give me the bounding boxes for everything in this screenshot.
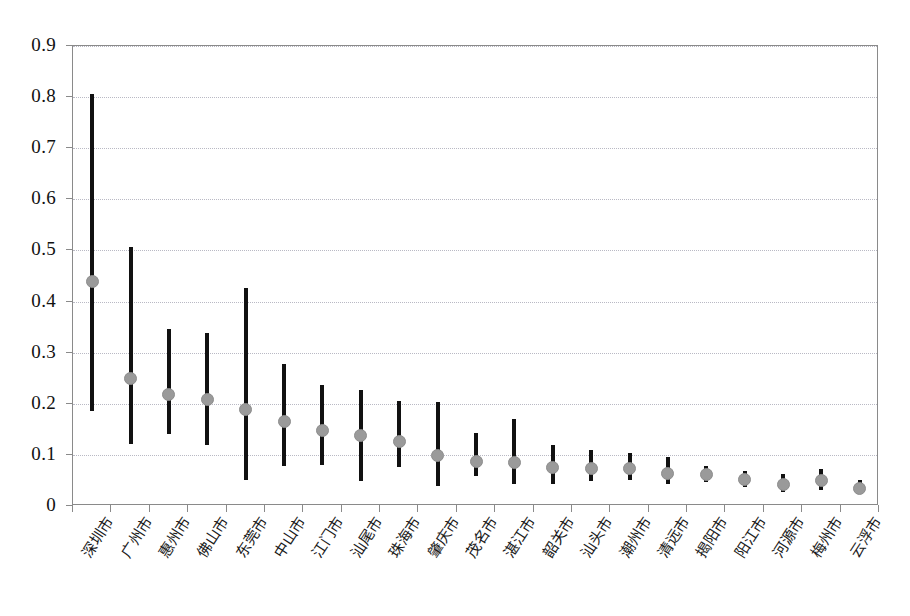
x-tick-mark: [417, 505, 418, 512]
data-point-marker: [278, 415, 291, 428]
y-tick-label: 0.8: [31, 85, 56, 107]
x-tick-label: 深圳市: [76, 512, 118, 561]
x-tick-mark: [149, 505, 150, 512]
x-tick-mark: [302, 505, 303, 512]
y-tick-mark: [66, 352, 72, 353]
y-tick-mark: [66, 301, 72, 302]
data-point-marker: [86, 275, 99, 288]
error-bar: [129, 247, 133, 443]
data-point-marker: [431, 449, 444, 462]
gridline: [73, 353, 877, 354]
x-tick-mark: [840, 505, 841, 512]
x-tick-mark: [187, 505, 188, 512]
x-tick-mark: [724, 505, 725, 512]
y-tick-label: 0.2: [31, 392, 56, 414]
x-tick-label: 茂名市: [459, 512, 501, 561]
x-tick-label: 潮州市: [613, 512, 655, 561]
y-tick-mark: [66, 454, 72, 455]
chart-container: 00.10.20.30.40.50.60.70.80.9 深圳市广州市惠州市佛山…: [0, 0, 910, 616]
data-point-marker: [661, 467, 674, 480]
error-bar: [244, 288, 248, 480]
x-tick-mark: [878, 505, 879, 512]
data-point-marker: [700, 468, 713, 481]
x-tick-label: 汕尾市: [344, 512, 386, 561]
x-tick-label: 中山市: [268, 512, 310, 561]
x-tick-mark: [571, 505, 572, 512]
x-tick-label: 珠海市: [383, 512, 425, 561]
error-bar: [205, 333, 209, 444]
data-point-marker: [546, 461, 559, 474]
y-tick-mark: [66, 198, 72, 199]
x-tick-mark: [379, 505, 380, 512]
y-tick-label: 0: [46, 494, 56, 516]
x-tick-mark: [110, 505, 111, 512]
y-tick-label: 0.3: [31, 341, 56, 363]
x-tick-mark: [72, 505, 73, 512]
x-tick-mark: [801, 505, 802, 512]
x-tick-mark: [648, 505, 649, 512]
x-tick-mark: [341, 505, 342, 512]
data-point-marker: [201, 393, 214, 406]
error-bar: [512, 419, 516, 483]
data-point-marker: [393, 435, 406, 448]
y-tick-label: 0.5: [31, 238, 56, 260]
y-tick-label: 0.7: [31, 136, 56, 158]
gridline: [73, 250, 877, 251]
data-point-marker: [354, 429, 367, 442]
x-tick-label: 江门市: [306, 512, 348, 561]
data-point-marker: [738, 473, 751, 486]
data-point-marker: [470, 455, 483, 468]
error-bar: [90, 94, 94, 411]
y-tick-label: 0.9: [31, 34, 56, 56]
y-tick-mark: [66, 45, 72, 46]
x-tick-label: 东莞市: [229, 512, 271, 561]
y-tick-label: 0.6: [31, 187, 56, 209]
data-point-marker: [316, 424, 329, 437]
x-tick-label: 广州市: [114, 512, 156, 561]
y-tick-label: 0.4: [31, 290, 56, 312]
x-tick-label: 韶关市: [536, 512, 578, 561]
gridline: [73, 97, 877, 98]
data-point-marker: [585, 462, 598, 475]
plot-area: [72, 45, 878, 505]
data-point-marker: [239, 403, 252, 416]
x-tick-label: 清远市: [651, 512, 693, 561]
x-tick-mark: [609, 505, 610, 512]
x-tick-mark: [456, 505, 457, 512]
x-tick-mark: [226, 505, 227, 512]
x-tick-label: 揭阳市: [690, 512, 732, 561]
y-tick-mark: [66, 249, 72, 250]
x-tick-label: 肇庆市: [421, 512, 463, 561]
y-tick-label: 0.1: [31, 443, 56, 465]
x-tick-label: 阳江市: [728, 512, 770, 561]
gridline: [73, 46, 877, 47]
y-tick-mark: [66, 147, 72, 148]
y-tick-mark: [66, 403, 72, 404]
x-tick-label: 云浮市: [843, 512, 885, 561]
data-point-marker: [162, 388, 175, 401]
x-tick-label: 梅州市: [805, 512, 847, 561]
data-point-marker: [815, 474, 828, 487]
x-tick-label: 佛山市: [191, 512, 233, 561]
x-tick-mark: [763, 505, 764, 512]
gridline: [73, 302, 877, 303]
y-axis: 00.10.20.30.40.50.60.70.80.9: [0, 0, 66, 616]
error-bar: [167, 329, 171, 434]
error-bar: [436, 402, 440, 486]
data-point-marker: [508, 456, 521, 469]
x-tick-mark: [533, 505, 534, 512]
x-tick-label: 河源市: [767, 512, 809, 561]
x-tick-mark: [264, 505, 265, 512]
x-tick-label: 惠州市: [152, 512, 194, 561]
gridline: [73, 148, 877, 149]
x-tick-mark: [686, 505, 687, 512]
x-tick-label: 湛江市: [498, 512, 540, 561]
data-point-marker: [623, 462, 636, 475]
gridline: [73, 404, 877, 405]
x-tick-label: 汕头市: [575, 512, 617, 561]
y-tick-mark: [66, 96, 72, 97]
x-tick-mark: [494, 505, 495, 512]
data-point-marker: [853, 482, 866, 495]
data-point-marker: [777, 478, 790, 491]
gridline: [73, 199, 877, 200]
